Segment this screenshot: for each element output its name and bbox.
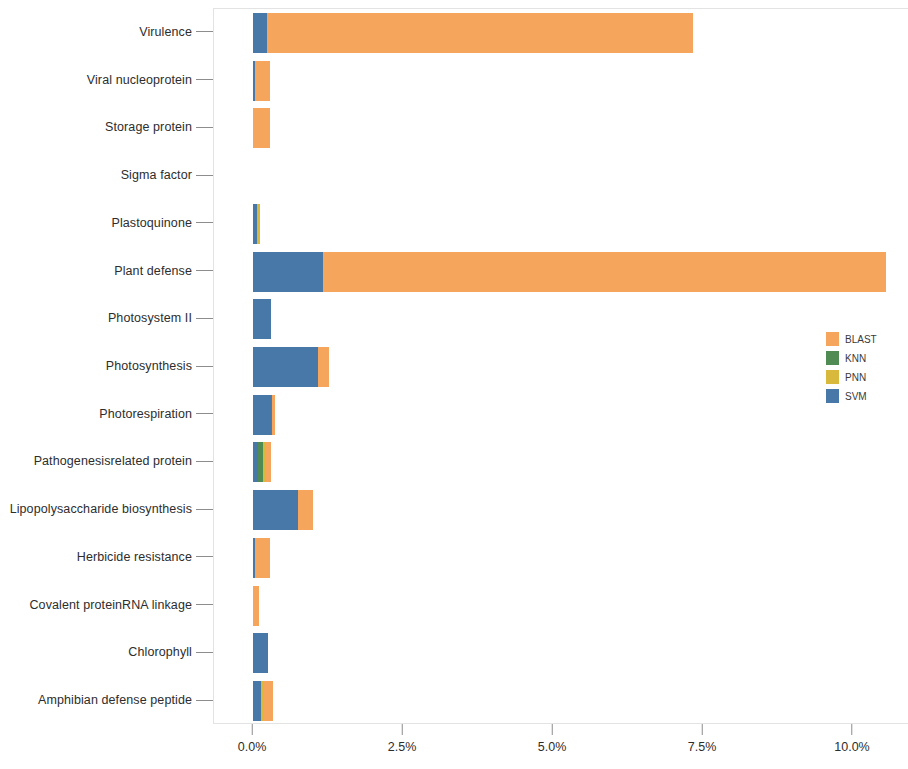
bar-segment-svm — [253, 633, 268, 673]
bar-segment-svm — [253, 490, 298, 530]
legend-label: PNN — [845, 372, 866, 383]
y-tick-mark — [196, 270, 213, 271]
x-axis-label: 0.0% — [238, 740, 267, 754]
y-axis-label: Virulence — [139, 25, 196, 39]
x-axis-tick-4: 7.5% — [688, 724, 717, 754]
y-axis-label: Herbicide resistance — [77, 550, 196, 564]
bar-segment-svm — [253, 347, 318, 387]
bar-5 — [253, 204, 260, 244]
y-axis-label: Photosystem II — [108, 311, 196, 325]
bar-15 — [253, 681, 273, 721]
y-tick-mark — [196, 556, 213, 557]
legend-swatch-icon — [826, 389, 839, 403]
bar-6 — [253, 252, 886, 292]
chart-legend: BLASTKNNPNNSVM — [826, 331, 906, 407]
y-axis-tick-11: Lipopolysaccharide biosynthesis — [0, 499, 213, 519]
y-axis-tick-8: Photosynthesis — [0, 356, 213, 376]
y-axis: VirulenceViral nucleoproteinStorage prot… — [0, 8, 213, 724]
y-tick-mark — [196, 318, 213, 319]
bar-segment-svm — [253, 252, 323, 292]
bar-segment-svm — [253, 299, 271, 339]
y-axis-label: Chlorophyll — [128, 645, 196, 659]
y-tick-mark — [196, 652, 213, 653]
y-tick-mark — [196, 127, 213, 128]
x-tick-mark — [702, 724, 703, 735]
x-axis-label: 5.0% — [538, 740, 567, 754]
y-axis-tick-2: Viral nucleoprotein — [0, 70, 213, 90]
bar-segment-blast — [298, 490, 313, 530]
y-axis-tick-13: Covalent proteinRNA linkage — [0, 595, 213, 615]
legend-label: BLAST — [845, 334, 877, 345]
y-tick-mark — [196, 222, 213, 223]
y-axis-label: Plant defense — [114, 264, 196, 278]
y-tick-mark — [196, 509, 213, 510]
bar-segment-blast — [264, 681, 273, 721]
x-axis-tick-2: 2.5% — [388, 724, 417, 754]
y-tick-mark — [196, 604, 213, 605]
bar-segment-blast — [253, 108, 270, 148]
bar-segment-blast — [323, 252, 886, 292]
legend-swatch-icon — [826, 332, 839, 346]
bar-segment-svm — [253, 13, 267, 53]
legend-item-pnn[interactable]: PNN — [826, 369, 906, 385]
y-axis-tick-3: Storage protein — [0, 117, 213, 137]
legend-label: SVM — [845, 391, 867, 402]
y-axis-label: Storage protein — [105, 120, 196, 134]
y-tick-mark — [196, 413, 213, 414]
legend-label: KNN — [845, 353, 866, 364]
x-axis-tick-3: 5.0% — [538, 724, 567, 754]
bar-12 — [253, 538, 270, 578]
bar-segment-svm — [253, 395, 271, 435]
x-axis: 0.0%2.5%5.0%7.5%10.0% — [213, 724, 908, 769]
y-axis-tick-10: Pathogenesisrelated protein — [0, 451, 213, 471]
y-axis-label: Photosynthesis — [106, 359, 196, 373]
y-axis-label: Photorespiration — [99, 407, 196, 421]
y-axis-tick-6: Plant defense — [0, 261, 213, 281]
bar-segment-svm — [253, 681, 261, 721]
x-axis-tick-5: 10.0% — [834, 724, 869, 754]
legend-swatch-icon — [826, 351, 839, 365]
bar-segment-blast — [267, 13, 693, 53]
bar-segment-blast — [255, 61, 270, 101]
legend-item-svm[interactable]: SVM — [826, 388, 906, 404]
y-axis-label: Pathogenesisrelated protein — [34, 454, 196, 468]
x-axis-label: 10.0% — [834, 740, 869, 754]
x-axis-tick-1: 0.0% — [238, 724, 267, 754]
bar-3 — [253, 108, 270, 148]
chart-figure: VirulenceViral nucleoproteinStorage prot… — [0, 0, 908, 769]
plot-area — [213, 8, 908, 724]
y-axis-tick-7: Photosystem II — [0, 308, 213, 328]
y-axis-label: Plastoquinone — [111, 216, 196, 230]
y-axis-tick-9: Photorespiration — [0, 404, 213, 424]
bar-segment-blast — [255, 538, 270, 578]
x-axis-label: 7.5% — [688, 740, 717, 754]
y-axis-tick-1: Virulence — [0, 22, 213, 42]
y-axis-label: Viral nucleoprotein — [87, 73, 196, 87]
bar-segment-blast — [266, 442, 271, 482]
legend-item-blast[interactable]: BLAST — [826, 331, 906, 347]
y-axis-label: Sigma factor — [121, 168, 196, 182]
bar-segment-blast — [272, 395, 275, 435]
y-tick-mark — [196, 175, 213, 176]
y-tick-mark — [196, 461, 213, 462]
x-tick-mark — [252, 724, 253, 735]
y-axis-label: Amphibian defense peptide — [38, 693, 196, 707]
bar-9 — [253, 395, 275, 435]
bar-8 — [253, 347, 329, 387]
bar-10 — [253, 442, 271, 482]
bar-segment-pnn — [257, 204, 260, 244]
y-axis-tick-12: Herbicide resistance — [0, 547, 213, 567]
bar-segment-blast — [253, 586, 259, 626]
legend-item-knn[interactable]: KNN — [826, 350, 906, 366]
y-axis-tick-5: Plastoquinone — [0, 213, 213, 233]
y-axis-tick-14: Chlorophyll — [0, 642, 213, 662]
bar-2 — [253, 61, 270, 101]
bar-11 — [253, 490, 313, 530]
y-tick-mark — [196, 31, 213, 32]
y-axis-tick-4: Sigma factor — [0, 165, 213, 185]
x-tick-mark — [552, 724, 553, 735]
y-tick-mark — [196, 79, 213, 80]
bar-1 — [253, 13, 693, 53]
x-tick-mark — [851, 724, 852, 735]
y-tick-mark — [196, 700, 213, 701]
